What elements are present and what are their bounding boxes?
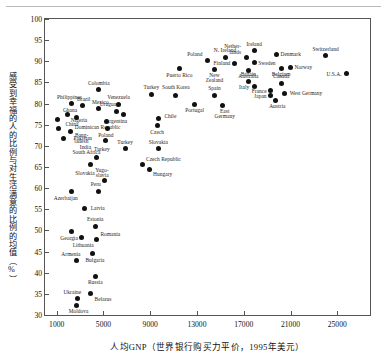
y-axis-title: 感受到幸福的人的比例与对生活满意的比例的均值（%） xyxy=(4,42,18,312)
data-point xyxy=(75,296,80,301)
point-label: Yugo- slavia xyxy=(95,168,108,179)
y-tick-label: 40 xyxy=(34,268,42,277)
point-label: Czech xyxy=(150,130,164,136)
data-point xyxy=(105,126,110,131)
x-tick-mark xyxy=(291,311,292,315)
y-tick-mark xyxy=(45,19,49,20)
y-tick-mark xyxy=(45,188,49,189)
data-point xyxy=(93,274,98,279)
data-point xyxy=(323,53,328,58)
x-tick-label: 5000 xyxy=(96,320,111,329)
y-tick-label: 50 xyxy=(34,226,42,235)
point-label: Chile xyxy=(164,114,176,120)
y-tick-mark xyxy=(45,294,49,295)
point-label: Venezuela xyxy=(107,95,130,101)
point-label: Sweden xyxy=(258,61,275,67)
data-point xyxy=(93,224,98,229)
y-tick-label: 65 xyxy=(34,163,42,172)
point-label: New Zealand xyxy=(206,73,224,84)
data-point xyxy=(61,136,66,141)
data-point xyxy=(56,126,61,131)
data-point xyxy=(282,91,287,96)
y-tick-mark xyxy=(45,230,49,231)
data-point xyxy=(252,60,257,65)
point-label: Bulgaria xyxy=(85,258,104,264)
y-tick-label: 75 xyxy=(34,120,42,129)
point-label: Denmark xyxy=(280,52,300,58)
x-tick-mark xyxy=(244,311,245,315)
y-tick-mark xyxy=(45,146,49,147)
header-rule xyxy=(6,6,381,7)
y-tick-mark xyxy=(45,125,49,126)
data-point xyxy=(116,102,121,107)
point-label: Brazil xyxy=(77,97,90,103)
data-point xyxy=(94,155,99,160)
plot-area: 3035404550556065707580859095100100050009… xyxy=(44,18,371,316)
x-tick-label: 13000 xyxy=(187,320,206,329)
y-tick-mark xyxy=(45,104,49,105)
point-label: Switzerland xyxy=(312,47,338,53)
data-point xyxy=(74,258,79,263)
x-tick-label: 25000 xyxy=(328,320,347,329)
x-tick-mark xyxy=(150,311,151,315)
x-axis-title: 人均GNP（世界银行购买力平价，1995年美元） xyxy=(44,340,371,352)
data-point xyxy=(149,92,154,97)
data-point xyxy=(114,109,119,114)
data-point xyxy=(121,112,126,117)
point-label: Lithuania xyxy=(73,243,94,249)
x-tick-mark xyxy=(337,311,338,315)
point-label: Norway xyxy=(295,65,313,71)
y-tick-mark xyxy=(45,315,49,316)
data-point xyxy=(177,66,182,71)
point-label: Turkey xyxy=(144,85,160,91)
y-tick-mark xyxy=(45,61,49,62)
data-point xyxy=(80,103,85,108)
point-label: Pakistan xyxy=(73,136,92,142)
x-tick-label: 1000 xyxy=(49,320,64,329)
y-tick-label: 35 xyxy=(34,289,42,298)
data-point xyxy=(69,101,74,106)
data-point xyxy=(123,146,128,151)
point-label: Japan xyxy=(254,94,267,100)
point-label: Russia xyxy=(88,280,103,286)
point-label: Portugal xyxy=(185,108,204,114)
y-tick-label: 30 xyxy=(34,311,42,320)
y-tick-mark xyxy=(45,273,49,274)
x-tick-mark xyxy=(57,311,58,315)
point-label: South Africa xyxy=(72,150,100,156)
y-tick-label: 70 xyxy=(34,141,42,150)
point-label: Estonia xyxy=(87,217,104,223)
point-label: Romania xyxy=(100,232,120,238)
point-label: Finland xyxy=(214,61,231,67)
data-point xyxy=(69,229,74,234)
data-point xyxy=(147,167,152,172)
y-tick-mark xyxy=(45,167,49,168)
x-tick-mark xyxy=(197,311,198,315)
data-point xyxy=(156,116,161,121)
point-label: Ireland xyxy=(246,42,262,48)
point-label: Slovakia xyxy=(75,171,94,177)
data-point xyxy=(79,235,84,240)
point-label: Moldova xyxy=(69,309,89,315)
data-point xyxy=(55,117,60,122)
point-label: Poland xyxy=(187,52,202,58)
point-label: Puerto Rico xyxy=(166,73,192,79)
data-point xyxy=(279,81,284,86)
point-label: West Germany xyxy=(290,91,323,97)
y-tick-label: 100 xyxy=(31,15,42,24)
point-label: Canada xyxy=(273,74,289,80)
point-label: U.S.A. xyxy=(326,72,341,78)
data-point xyxy=(102,178,107,183)
y-tick-mark xyxy=(45,40,49,41)
y-tick-mark xyxy=(45,252,49,253)
y-tick-label: 60 xyxy=(34,184,42,193)
data-point xyxy=(192,102,197,107)
point-label: Nether- lands xyxy=(224,44,241,55)
data-point xyxy=(94,237,99,242)
data-point xyxy=(69,189,74,194)
point-label: Peru xyxy=(91,182,101,188)
data-point xyxy=(88,291,93,296)
data-point xyxy=(103,138,108,143)
data-point xyxy=(90,251,95,256)
point-label: Hungary xyxy=(153,172,172,178)
